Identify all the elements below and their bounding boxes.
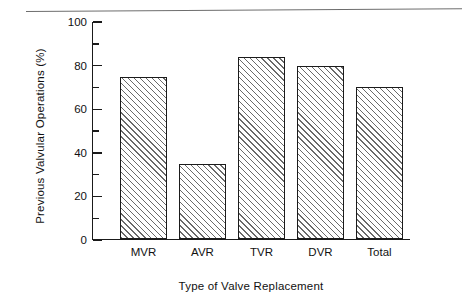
x-tick-label-mvr: MVR — [120, 246, 167, 258]
x-tick-label-dvr: DVR — [297, 246, 344, 258]
bar-total — [356, 87, 403, 238]
y-tick-label: 60 — [74, 103, 87, 115]
y-tick-mark — [93, 239, 102, 240]
x-axis-title: Type of Valve Replacement — [92, 280, 410, 292]
bar-tvr — [238, 57, 285, 239]
y-tick-major: 0 — [92, 239, 101, 240]
x-tick-label-tvr: TVR — [238, 246, 285, 258]
y-tick-label: 40 — [74, 147, 87, 159]
bar-mvr — [120, 77, 167, 239]
x-axis-tick-labels: MVRAVRTVRDVRTotal — [92, 246, 410, 262]
y-tick-label: 0 — [81, 234, 87, 246]
bar-dvr — [297, 66, 344, 239]
y-tick-label: 20 — [74, 190, 87, 202]
x-axis-spine — [92, 239, 410, 240]
y-tick-label: 80 — [74, 60, 87, 72]
x-tick-label-total: Total — [356, 246, 403, 258]
plot-area: 020406080100 — [92, 22, 410, 240]
bar-avr — [179, 164, 226, 239]
bar-series — [92, 22, 410, 239]
y-tick-label: 100 — [68, 16, 87, 28]
y-axis-title: Previous Valvular Operations (%) — [34, 31, 46, 241]
bar-chart-figure: Previous Valvular Operations (%) 0204060… — [0, 0, 468, 306]
x-tick-label-avr: AVR — [179, 246, 226, 258]
